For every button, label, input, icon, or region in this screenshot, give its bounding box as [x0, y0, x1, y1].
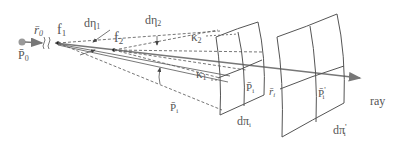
label-kappa2: κ2 — [191, 29, 202, 45]
label-p0: P̄0 — [18, 48, 29, 63]
label-ray: ray — [370, 94, 385, 108]
diagram-canvas: r̄0 P̄0 f1 f2 dη1 dη2 κ2 κ1 P̄i P̄i r̄i … — [0, 0, 399, 146]
label-dpi: dπi — [237, 114, 251, 129]
label-pi-surface: P̄i — [246, 81, 254, 95]
source-point-icon — [19, 39, 26, 46]
label-pi-left: P̄i — [170, 101, 178, 115]
label-deta2: dη2 — [145, 13, 161, 28]
label-dpi-prime: dπ'i — [333, 122, 347, 138]
label-pi-prime: P̄'i — [318, 86, 326, 101]
label-f2: f2 — [114, 30, 123, 46]
ray-wavefront-diagram: r̄0 P̄0 f1 f2 dη1 dη2 κ2 κ1 P̄i P̄i r̄i … — [0, 0, 399, 146]
label-r0: r̄0 — [34, 22, 43, 38]
label-f1: f1 — [57, 22, 66, 38]
label-kappa1: κ1 — [196, 66, 207, 82]
label-deta1: dη1 — [84, 16, 100, 31]
label-ri: r̄i — [269, 85, 275, 99]
surface-dpi-i — [216, 22, 264, 115]
